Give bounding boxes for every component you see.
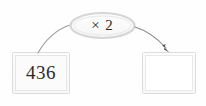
operation-bubble[interactable] [71, 13, 135, 38]
arrow-input-to-operation [38, 25, 70, 53]
arrow-operation-to-output [135, 27, 166, 48]
input-box-inner-edge [16, 56, 67, 91]
output-box-inner-edge [146, 56, 193, 91]
diagram-graphics [0, 0, 206, 106]
diagram-canvas: 436 × 2 [0, 0, 206, 106]
